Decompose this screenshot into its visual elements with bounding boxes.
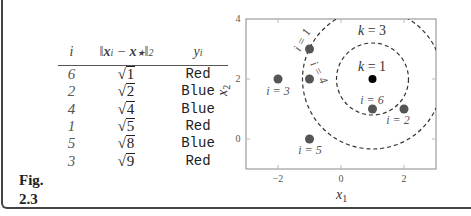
x-axis-label: x1 [335,187,347,204]
data-point-3 [274,75,283,84]
data-point-4 [305,75,314,84]
ytick-label: 4 [236,13,241,24]
point-label-6: i = 6 [360,93,383,107]
xtick-label: 2 [402,173,407,184]
ytick-label: 0 [236,133,241,144]
ytick-label: 2 [236,73,241,84]
k3-label: k = 3 [358,23,386,38]
y-axis-label: x2 [215,85,232,97]
point-label-3: i = 3 [266,84,289,98]
query-point [369,75,377,83]
xtick-label: −2 [273,173,284,184]
k1-label: k = 1 [358,59,386,74]
point-label-5: i = 5 [298,143,321,157]
xtick-label: 0 [339,173,344,184]
point-label-2: i = 2 [386,113,409,127]
